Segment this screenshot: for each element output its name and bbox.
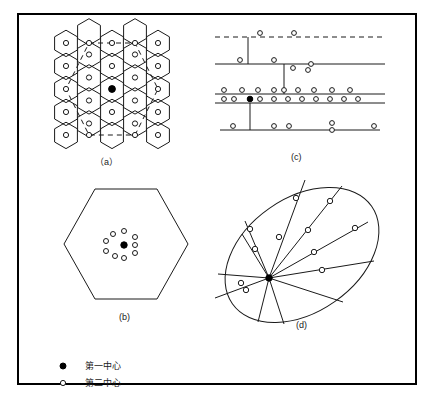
legend-label-first-center: 第一中心 bbox=[85, 359, 121, 372]
figure-frame: （a） (c) (b) (d) 第一中心 第二中心 bbox=[17, 13, 417, 385]
panel-d-spokes bbox=[215, 180, 374, 324]
filled-dot-icon bbox=[55, 361, 71, 371]
panel-d-first-center bbox=[266, 275, 272, 281]
legend-item-second-center: 第二中心 bbox=[55, 374, 121, 391]
panel-d-second-centers bbox=[238, 195, 357, 292]
hollow-circle-icon bbox=[55, 378, 71, 388]
panel-label-c: (c) bbox=[291, 152, 302, 162]
panel-label-d: (d) bbox=[296, 320, 307, 330]
panel-label-a: （a） bbox=[95, 155, 118, 168]
legend-label-second-center: 第二中心 bbox=[85, 376, 121, 389]
figure-root: （a） (c) (b) (d) 第一中心 第二中心 bbox=[0, 0, 434, 398]
legend-item-first-center: 第一中心 bbox=[55, 357, 121, 374]
panel-d bbox=[19, 15, 419, 387]
legend: 第一中心 第二中心 bbox=[55, 357, 121, 391]
panel-label-b: (b) bbox=[119, 312, 130, 322]
